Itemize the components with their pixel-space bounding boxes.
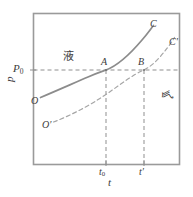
phase-diagram-figure: p P0 t t0 t′ O O′ A B C C′ 液 气 xyxy=(0,0,193,197)
y-tick-label-p0: P0 xyxy=(13,63,23,75)
curve-oac xyxy=(41,26,154,98)
y-tick-label-p0-sub: 0 xyxy=(20,67,24,76)
y-tick-label-p0-main: P xyxy=(13,62,20,74)
x-tick-label-t0: t0 xyxy=(99,167,105,178)
point-label-b: B xyxy=(138,57,144,67)
point-label-o: O xyxy=(31,96,38,106)
x-tick-label-t0-sub: 0 xyxy=(102,170,105,177)
point-label-c: C xyxy=(150,19,157,29)
x-tick-label-tprime: t′ xyxy=(139,167,144,177)
x-axis-label: t xyxy=(108,177,111,188)
y-axis-label: p xyxy=(4,77,15,83)
point-label-cprime: C′ xyxy=(169,37,178,47)
point-marker-b xyxy=(143,69,145,71)
region-label-liquid: 液 xyxy=(63,51,74,62)
point-label-a: A xyxy=(101,57,107,67)
x-tick-label-tprime-sub: ′ xyxy=(142,166,144,177)
point-marker-a xyxy=(105,69,107,71)
point-label-oprime: O′ xyxy=(42,120,51,130)
